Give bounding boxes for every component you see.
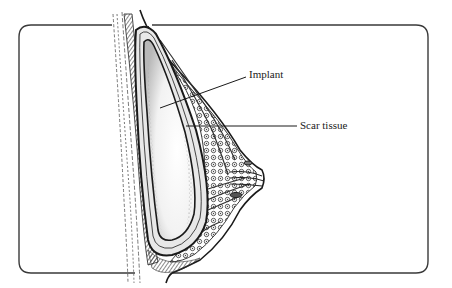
implant-label: Implant (249, 69, 283, 80)
anatomical-figure: Implant Scar tissue (0, 0, 452, 288)
breast-implant-illustration (0, 0, 452, 288)
scar-tissue-label: Scar tissue (300, 120, 347, 131)
